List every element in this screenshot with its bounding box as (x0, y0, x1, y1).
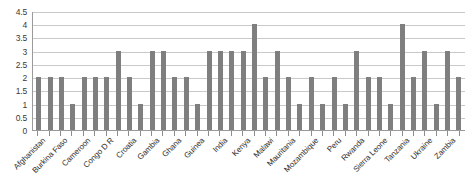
bar (297, 104, 302, 130)
x-category-label: India (211, 136, 229, 154)
x-category-label: Ghana (161, 136, 184, 159)
x-category-label: Gambia (135, 136, 161, 162)
bar (104, 77, 109, 130)
bar (93, 77, 98, 130)
bar (59, 77, 64, 130)
bar (411, 77, 416, 130)
bar (252, 24, 257, 130)
bar (377, 77, 382, 130)
bar (138, 104, 143, 130)
bar (195, 104, 200, 130)
bar (263, 77, 268, 130)
x-category-label: Kenya (230, 136, 252, 158)
bar (127, 77, 132, 130)
y-tick-label: 2.5 (16, 61, 27, 70)
y-tick-label: 4.5 (16, 8, 27, 17)
bar (456, 77, 461, 130)
bar (241, 51, 246, 130)
y-tick-label: 0 (22, 127, 27, 136)
bar (309, 77, 314, 130)
bar-chart: 00.511.522.533.544.5 AfghanistanBurkina … (0, 0, 473, 195)
bar (218, 51, 223, 130)
y-tick-label: 1 (22, 100, 27, 109)
bar (48, 77, 53, 130)
bar (400, 24, 405, 130)
y-tick-label: 0.5 (16, 114, 27, 123)
bar (422, 51, 427, 130)
bar (354, 51, 359, 130)
y-tick-label: 3 (22, 47, 27, 56)
bar (343, 104, 348, 130)
x-category-label: Ukraine (409, 136, 434, 161)
bar (320, 104, 325, 130)
bar (332, 77, 337, 130)
plot-area (32, 12, 465, 131)
y-tick-label: 2 (22, 74, 27, 83)
bar (366, 77, 371, 130)
x-category-label: Zambia (432, 136, 457, 161)
bar (172, 77, 177, 130)
y-axis-tick-labels: 00.511.522.533.544.5 (0, 12, 30, 131)
bar-series (33, 12, 465, 130)
bar (445, 51, 450, 130)
bar (116, 51, 121, 130)
bar (286, 77, 291, 130)
y-tick-label: 1.5 (16, 87, 27, 96)
bar (161, 51, 166, 130)
y-tick-label: 4 (22, 21, 27, 30)
x-category-label: Croatia (114, 136, 138, 160)
bar (36, 77, 41, 130)
bar (207, 51, 212, 130)
x-category-label: Peru (325, 136, 343, 154)
bar (70, 104, 75, 130)
bar (229, 51, 234, 130)
x-category-label: Guinea (182, 136, 206, 160)
bar (82, 77, 87, 130)
bar (434, 104, 439, 130)
bar (184, 77, 189, 130)
bar (388, 104, 393, 130)
x-axis-category-labels: AfghanistanBurkina FasoCameroonCongo D R… (32, 136, 465, 195)
bar (275, 51, 280, 130)
y-tick-label: 3.5 (16, 34, 27, 43)
bar (150, 51, 155, 130)
